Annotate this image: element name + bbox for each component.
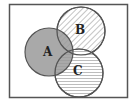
set-c-label: C [73, 64, 83, 78]
set-a-label: A [42, 45, 53, 59]
set-b-label: B [75, 23, 85, 37]
venn-diagram: A B C [0, 0, 132, 109]
